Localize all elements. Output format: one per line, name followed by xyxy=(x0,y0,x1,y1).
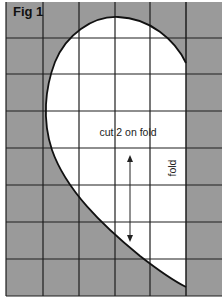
fold-label: fold xyxy=(166,159,178,176)
pattern-figure: Fig 1 cut 2 on fold fold xyxy=(0,0,222,299)
pattern-diagram: Fig 1 cut 2 on fold fold xyxy=(0,0,222,299)
figure-title: Fig 1 xyxy=(13,4,43,19)
cut-instruction-label: cut 2 on fold xyxy=(99,126,156,138)
